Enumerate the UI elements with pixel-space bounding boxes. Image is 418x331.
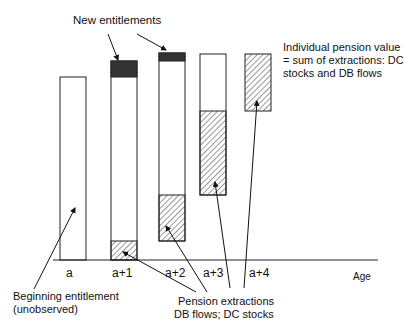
pension-value-label-1: Individual pension value <box>283 41 400 54</box>
new-entitlement-a2 <box>159 53 185 61</box>
arrow-new-a2 <box>137 34 166 50</box>
bar-a2 <box>159 53 185 241</box>
arrow-extract-a2 <box>166 226 207 292</box>
tick-a2: a+2 <box>165 266 185 280</box>
bar-a4 <box>245 54 271 111</box>
tick-a3: a+3 <box>203 266 223 280</box>
bar-a3 <box>200 54 226 195</box>
arrow-new-a1 <box>108 34 118 60</box>
extraction-a3 <box>200 111 226 195</box>
tick-a: a <box>66 266 73 280</box>
axis-label-age: Age <box>353 270 371 283</box>
extraction-a4 <box>245 54 271 111</box>
new-entitlement-a1 <box>111 61 137 77</box>
beginning-label-1: Beginning entitlement <box>13 290 119 303</box>
tick-a4: a+4 <box>249 266 269 280</box>
pension-value-label-2: = sum of extractions: DC <box>283 54 404 67</box>
bar-a <box>60 77 86 260</box>
bar-a1 <box>111 61 137 260</box>
extractions-label-2: DB flows; DC stocks <box>174 308 274 321</box>
extraction-a2 <box>159 195 185 241</box>
new-entitlements-label: New entitlements <box>73 14 161 27</box>
beginning-label-2: (unobserved) <box>13 303 78 316</box>
extractions-label-1: Pension extractions <box>178 295 274 308</box>
tick-a1: a+1 <box>112 266 132 280</box>
pension-value-label-3: stocks and DB flows <box>283 67 382 80</box>
